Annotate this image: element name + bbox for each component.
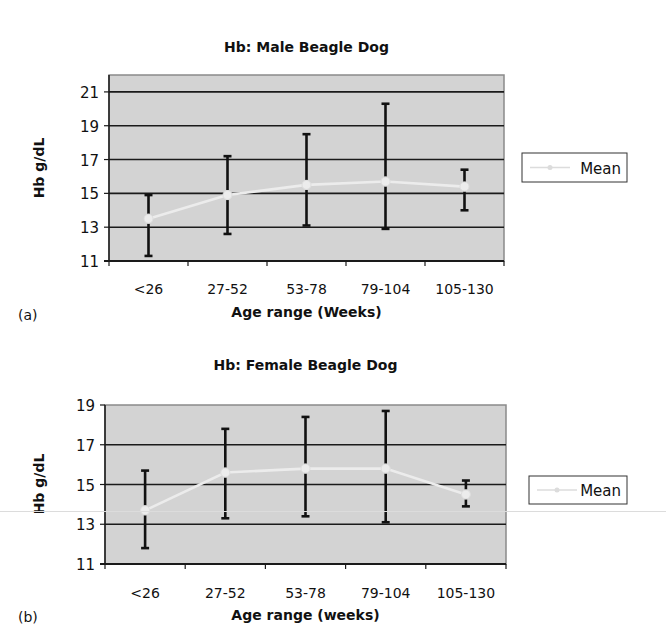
mean-marker — [381, 464, 390, 473]
y-tick-label: 17 — [80, 152, 99, 170]
y-axis-title: Hb g/dL — [31, 454, 47, 515]
mean-marker — [301, 464, 310, 473]
panel-label: (b) — [18, 609, 38, 625]
legend-marker-icon — [555, 488, 560, 493]
x-tick-label: 105-130 — [437, 585, 496, 601]
chart-b-canvas: Hb: Female Beagle Dog1113151719<2627-525… — [0, 330, 666, 641]
x-axis-title: Age range (Weeks) — [231, 304, 381, 320]
legend-label: Mean — [580, 160, 621, 178]
y-tick-label: 17 — [76, 437, 95, 455]
mean-marker — [144, 214, 153, 223]
y-tick-label: 13 — [76, 516, 95, 534]
chart-a-canvas: Hb: Male Beagle Dog111315171921<2627-525… — [0, 0, 666, 330]
mean-marker — [381, 177, 390, 186]
y-tick-label: 19 — [80, 118, 99, 136]
legend-label: Mean — [580, 482, 621, 500]
chart-title: Hb: Female Beagle Dog — [214, 357, 398, 373]
mean-marker — [460, 182, 469, 191]
chart-female-beagle: Hb: Female Beagle Dog1113151719<2627-525… — [0, 330, 666, 641]
y-tick-label: 11 — [80, 253, 99, 271]
chart-male-beagle: Hb: Male Beagle Dog111315171921<2627-525… — [0, 0, 666, 330]
y-tick-label: 19 — [76, 397, 95, 415]
x-tick-label: <26 — [130, 585, 160, 601]
x-axis-title: Age range (weeks) — [231, 607, 379, 623]
legend-marker-icon — [548, 165, 553, 170]
panel-label: (a) — [18, 307, 38, 323]
y-tick-label: 13 — [80, 219, 99, 237]
y-tick-label: 21 — [80, 84, 99, 102]
mean-marker — [223, 191, 232, 200]
x-tick-label: 27-52 — [205, 585, 246, 601]
chart-title: Hb: Male Beagle Dog — [224, 39, 389, 55]
mean-marker — [302, 180, 311, 189]
x-tick-label: 105-130 — [435, 281, 494, 297]
legend: Mean — [522, 153, 627, 182]
x-tick-label: 53-78 — [286, 281, 327, 297]
y-tick-label: 15 — [80, 185, 99, 203]
x-tick-label: <26 — [134, 281, 164, 297]
x-tick-label: 79-104 — [361, 281, 411, 297]
x-tick-label: 79-104 — [361, 585, 411, 601]
y-axis-title: Hb g/dL — [31, 138, 47, 199]
y-tick-label: 15 — [76, 477, 95, 495]
x-tick-label: 27-52 — [207, 281, 248, 297]
y-tick-label: 11 — [76, 556, 95, 574]
x-tick-label: 53-78 — [285, 585, 326, 601]
mean-marker — [221, 468, 230, 477]
mean-marker — [461, 490, 470, 499]
scan-artifact-line — [0, 511, 666, 512]
legend: Mean — [529, 476, 627, 504]
